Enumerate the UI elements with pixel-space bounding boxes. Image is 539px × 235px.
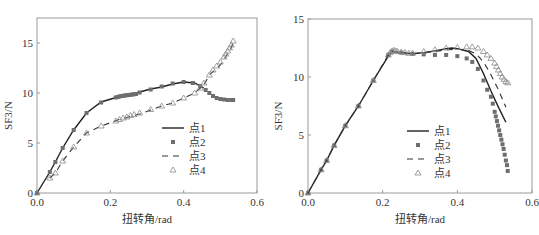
svg-text:点1: 点1 [189,122,206,134]
y-tick-label: 5 [299,129,305,141]
series-点2 [306,49,510,195]
legend-item: 点3 [162,150,206,162]
legend-item: 点1 [407,125,451,137]
legend-item: 点1 [162,122,206,134]
plot-frame [37,18,257,193]
legend-item: 点2 [171,136,206,148]
x-tick-label: 0.6 [525,196,539,208]
svg-text:点2: 点2 [434,139,451,151]
svg-text:点3: 点3 [189,150,206,162]
legend: 点1点2点3点4 [407,125,451,179]
series-点1 [37,82,204,193]
legend-item: 点2 [416,139,451,151]
y-axis-label: SF3/N [272,102,284,131]
y-tick-label: 5 [28,137,34,149]
x-tick-label: 0.4 [450,196,464,208]
y-axis-label: SF3/N [2,101,14,130]
legend-item: 点3 [407,153,451,165]
x-axis-label: 扭转角/rad [122,212,173,225]
legend-item: 点4 [415,167,451,179]
y-tick-label: 15 [293,13,305,25]
y-tick-label: 15 [22,37,34,49]
y-tick-label: 0 [28,187,34,199]
svg-text:点3: 点3 [434,153,451,165]
x-axis-label: 扭转角/rad [395,212,446,225]
x-tick-label: 0.2 [376,196,390,208]
svg-text:点4: 点4 [189,164,206,176]
chart-left-svg: 0.00.20.40.6051015扭转角/radSF3/N点1点2点3点4 [0,0,270,235]
x-tick-label: 0.6 [250,196,264,208]
y-tick-label: 0 [299,187,305,199]
chart-right-svg: 0.00.20.40.6051015扭转角/radSF3/N点1点2点3点4 [270,0,539,235]
x-tick-label: 0.2 [103,196,117,208]
series-点3 [50,42,233,178]
series-点4 [34,38,236,195]
y-tick-label: 10 [293,71,305,83]
y-tick-label: 10 [22,87,34,99]
svg-text:点2: 点2 [189,136,206,148]
legend: 点1点2点3点4 [162,122,206,176]
chart-right-torsion-force: 0.00.20.40.6051015扭转角/radSF3/N点1点2点3点4 [270,0,539,235]
chart-left-torsion-force: 0.00.20.40.6051015扭转角/radSF3/N点1点2点3点4 [0,0,270,235]
svg-text:点4: 点4 [434,167,451,179]
legend-item: 点4 [170,164,206,176]
x-tick-label: 0.4 [177,196,191,208]
svg-text:点1: 点1 [434,125,451,137]
